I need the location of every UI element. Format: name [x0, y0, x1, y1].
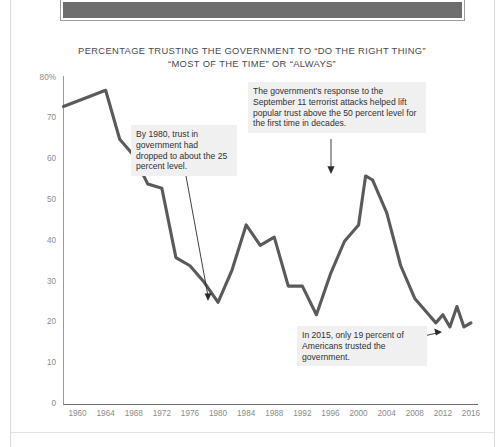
- y-tick-30: 30: [22, 278, 56, 286]
- y-tick-10: 10: [22, 359, 56, 367]
- annotation-september-11: The government’s response to the Septemb…: [248, 82, 426, 133]
- arrowhead-1980: [205, 293, 212, 301]
- y-tick-20: 20: [22, 318, 56, 326]
- arrowhead-2015: [434, 329, 442, 336]
- annotation-2015: In 2015, only 19 percent of Americans tr…: [297, 326, 427, 366]
- y-tick-80pct: 80%: [22, 74, 56, 82]
- y-tick-50: 50: [22, 196, 56, 204]
- x-tick-2016: 2016: [451, 409, 491, 418]
- annotation-1980: By 1980, trust in government had dropped…: [131, 125, 237, 176]
- arrowhead-911: [327, 166, 334, 174]
- y-tick-0: 0: [22, 400, 56, 408]
- leader-line-1980: [186, 176, 208, 296]
- y-tick-40: 40: [22, 237, 56, 245]
- y-tick-60: 60: [22, 155, 56, 163]
- plot-area: [0, 0, 504, 447]
- trust-in-government-line-chart: PERCENTAGE TRUSTING THE GOVERNMENT TO “D…: [0, 0, 504, 447]
- y-tick-70: 70: [22, 114, 56, 122]
